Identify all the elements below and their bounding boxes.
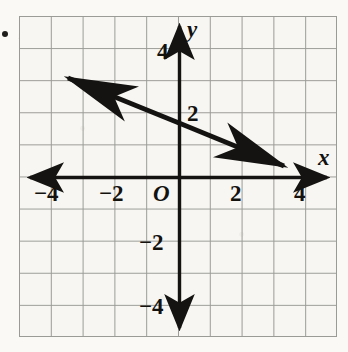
x-tick-label-4: 4 xyxy=(294,182,306,205)
y-axis-label: y xyxy=(187,18,197,41)
y-tick-label--2: −2 xyxy=(139,231,164,254)
x-tick-label-2: 2 xyxy=(230,182,242,205)
x-axis-label: x xyxy=(318,146,330,169)
y-tick-label--4: −4 xyxy=(139,295,164,318)
axes-and-plot xyxy=(0,0,348,352)
plotted-line xyxy=(68,78,284,166)
x-tick-label--2: −2 xyxy=(99,182,124,205)
coordinate-grid-figure: each with de of the of the equation grap… xyxy=(0,0,348,352)
origin-label: O xyxy=(153,182,170,205)
x-tick-label--4: −4 xyxy=(34,182,59,205)
y-tick-label-2: 2 xyxy=(187,102,199,125)
y-tick-label-4: 4 xyxy=(157,40,169,63)
